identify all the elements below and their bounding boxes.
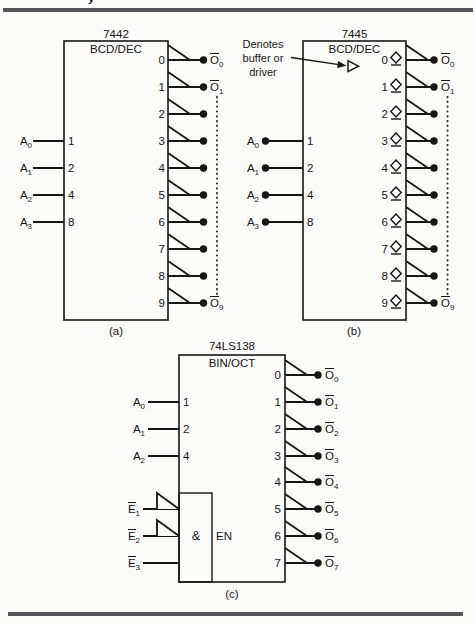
label-subscript: 9 <box>450 303 454 312</box>
enable-label: E1 <box>107 502 140 516</box>
overbar-letter: E <box>128 502 136 515</box>
output-label: O9 <box>441 296 454 310</box>
overbar-letter: O <box>325 556 334 569</box>
ic-74ls138-symbol <box>143 355 322 582</box>
label-subscript: 6 <box>334 536 338 545</box>
pin-weight: 2 <box>183 422 189 436</box>
output-number: 7 <box>139 242 165 256</box>
input-wires <box>33 141 64 222</box>
label-subscript: 0 <box>219 60 223 69</box>
output-number: 1 <box>362 80 388 94</box>
output-number: 3 <box>362 134 388 148</box>
output-number: 2 <box>139 107 165 121</box>
output-number: 9 <box>139 296 165 310</box>
output-number: 5 <box>139 188 165 202</box>
overbar-letter: O <box>441 80 450 93</box>
label-subscript: 3 <box>334 456 338 465</box>
figure-caption: (b) <box>323 324 385 338</box>
output-number: 4 <box>139 161 165 175</box>
output-number: 3 <box>255 449 281 463</box>
output-number: 5 <box>255 502 281 516</box>
output-number: 5 <box>362 188 388 202</box>
pin-weight: 1 <box>307 134 313 148</box>
overbar-letter: O <box>210 53 219 66</box>
label-subscript: 1 <box>450 87 454 96</box>
chip-name: 74LS138 <box>181 339 283 353</box>
output-label: O6 <box>325 529 338 543</box>
ic-7442-symbol <box>33 41 217 320</box>
polarity-indicator-icon <box>157 493 179 509</box>
figure-caption: (a) <box>85 324 147 338</box>
overbar-letter: O <box>325 449 334 462</box>
output-wires <box>168 60 203 303</box>
output-label: O9 <box>210 296 223 310</box>
output-number: 6 <box>139 215 165 229</box>
input-dots <box>262 137 269 225</box>
output-label: O0 <box>325 368 338 382</box>
pin-weight: 4 <box>183 449 189 463</box>
output-number: 7 <box>255 556 281 570</box>
pin-weight: 8 <box>68 215 74 229</box>
label-subscript: 2 <box>334 429 338 438</box>
label-subscript: 0 <box>334 375 338 384</box>
overbar-letter: O <box>325 502 334 515</box>
overbar-letter: O <box>325 368 334 381</box>
overbar-letter: O <box>210 296 219 309</box>
output-number: 7 <box>362 242 388 256</box>
output-label: O3 <box>325 449 338 463</box>
output-number: 1 <box>139 80 165 94</box>
ic-7445-symbol <box>262 41 448 320</box>
output-wires <box>406 60 434 303</box>
polarity-indicator-icon <box>406 45 428 303</box>
note-line: Denotes <box>227 37 299 51</box>
polarity-indicator-icon <box>157 520 179 536</box>
output-number: 8 <box>362 269 388 283</box>
annotation-arrowhead-icon <box>337 61 346 68</box>
output-number: 0 <box>255 368 281 382</box>
label-subscript: 7 <box>334 563 338 572</box>
input-label: A0 <box>0 134 32 148</box>
output-label: O5 <box>325 502 338 516</box>
and-qualifier: & <box>185 529 207 543</box>
output-wires <box>285 375 318 563</box>
output-number: 2 <box>362 107 388 121</box>
output-label: O2 <box>325 422 338 436</box>
input-label: A1 <box>112 422 145 436</box>
pin-weight: 2 <box>68 161 74 175</box>
pin-weight: 4 <box>68 188 74 202</box>
label-subscript: 1 <box>219 87 223 96</box>
junction-dots <box>200 56 207 306</box>
note-line: driver <box>227 65 299 79</box>
output-label: O7 <box>325 556 338 570</box>
input-label: A0 <box>226 134 259 148</box>
input-wires <box>265 141 303 222</box>
chip-name: 7445 <box>304 27 405 41</box>
enable-block-label: EN <box>216 529 232 543</box>
overbar-letter: O <box>210 80 219 93</box>
pin-weight: 4 <box>307 188 313 202</box>
input-label: A2 <box>0 188 32 202</box>
buffer-triangle-icon <box>348 61 359 72</box>
schematic-linework <box>0 0 475 623</box>
input-label: A1 <box>0 161 32 175</box>
output-number: 4 <box>255 475 281 489</box>
input-label: A0 <box>112 395 145 409</box>
overbar-letter: E <box>128 556 136 569</box>
output-label: O4 <box>325 475 338 489</box>
label-subscript: 0 <box>450 60 454 69</box>
pin-weight: 8 <box>307 215 313 229</box>
polarity-indicator-icon <box>168 45 190 303</box>
output-number: 6 <box>255 529 281 543</box>
overbar-letter: O <box>441 53 450 66</box>
overbar-letter: E <box>128 529 136 542</box>
output-label: O0 <box>441 53 454 67</box>
output-number: 4 <box>362 161 388 175</box>
input-label: A2 <box>226 188 259 202</box>
overbar-letter: O <box>325 475 334 488</box>
overbar-letter: O <box>325 529 334 542</box>
enable-label: E3 <box>107 556 140 570</box>
open-collector-diamond-icons <box>391 52 401 308</box>
chip-function-label: BCD/DEC <box>304 42 405 56</box>
chip-name: 7442 <box>65 27 167 41</box>
overbar-letter: O <box>325 395 334 408</box>
